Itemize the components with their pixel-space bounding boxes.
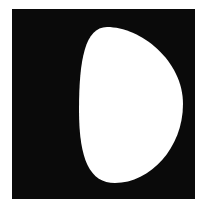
figure-canvas [0, 0, 210, 208]
